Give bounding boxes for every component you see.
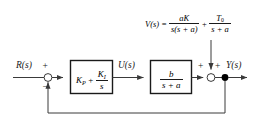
disturbance-equation-equals: =	[159, 19, 169, 29]
disturbance-term-2-numerator-subscript: 0	[221, 17, 224, 23]
control-signal-label: U(s)	[118, 61, 135, 71]
pi-integral-denominator: s	[96, 81, 108, 91]
pi-expression-plus: +	[86, 75, 96, 85]
pi-integral-term: KI s	[96, 69, 108, 91]
disturbance-equation-plus: +	[199, 19, 209, 29]
plant-transfer-function: b s + a	[160, 69, 183, 90]
pi-proportional-gain: KP	[76, 75, 86, 86]
output-signal-label: Y(s)	[226, 61, 241, 71]
disturbance-term-2-numerator: T0	[209, 13, 231, 24]
disturbance-term-1: aK s(s + a)	[169, 13, 200, 34]
disturbance-term-1-denominator: s(s + a)	[169, 24, 200, 34]
error-summing-junction	[44, 74, 52, 82]
plant-expression: b s + a	[160, 69, 183, 90]
disturbance-term-2-denominator: s + a	[209, 24, 231, 34]
error-sum-plus-sign: +	[43, 62, 48, 72]
output-takeoff-node	[222, 74, 229, 81]
pi-controller-expression: KP + KI s	[76, 69, 108, 91]
block-diagram-canvas: V(s) = aK s(s + a) + T0 s + a KP + KI s …	[0, 0, 261, 129]
disturbance-term-1-numerator: aK	[169, 13, 200, 24]
plant-numerator: b	[160, 69, 183, 80]
output-summing-junction	[207, 74, 215, 82]
output-sum-plus-sign-right: +	[215, 62, 220, 72]
disturbance-term-2: T0 s + a	[209, 13, 231, 34]
disturbance-equation-lhs: V(s)	[145, 19, 159, 29]
disturbance-equation: V(s) = aK s(s + a) + T0 s + a	[145, 13, 231, 34]
pi-integral-gain: KI	[96, 69, 108, 81]
reference-signal-label: R(s)	[16, 61, 32, 71]
error-sum-minus-sign: −	[43, 83, 48, 93]
plant-denominator: s + a	[160, 80, 183, 90]
pi-integral-gain-subscript: I	[104, 74, 106, 80]
output-sum-plus-sign-left: +	[198, 62, 203, 72]
